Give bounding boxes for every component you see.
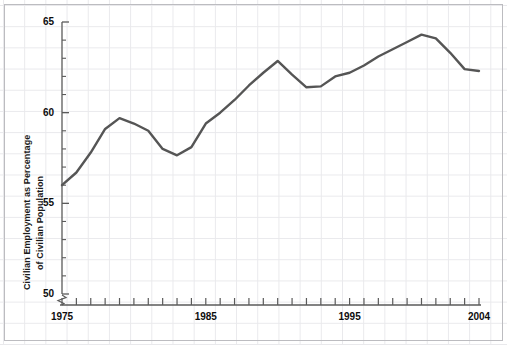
x-axis-tick-label: 1995 <box>334 311 366 322</box>
y-axis-tick-label: 50 <box>28 288 54 299</box>
plot-area <box>0 0 507 345</box>
y-axis-tick-label: 55 <box>28 197 54 208</box>
y-axis-tick-label: 60 <box>28 107 54 118</box>
y-axis-tick-label: 65 <box>28 16 54 27</box>
axis-layer <box>58 22 481 305</box>
data-line <box>62 35 479 186</box>
chart-figure: Civilian Employment as Percentage of Civ… <box>0 0 507 345</box>
x-axis-tick-label: 1985 <box>190 311 222 322</box>
x-axis-tick-label: 1975 <box>46 311 78 322</box>
data-series-layer <box>62 35 479 186</box>
x-axis-tick-label: 2004 <box>463 311 495 322</box>
